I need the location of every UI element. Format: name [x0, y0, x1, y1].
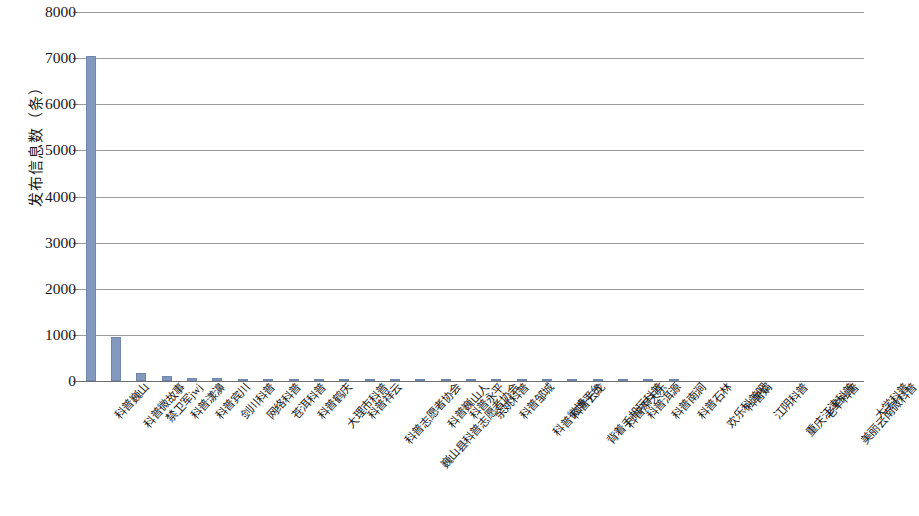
y-axis-tick-label: 8000 — [6, 4, 76, 20]
bar-series — [78, 12, 864, 381]
y-axis-tick-label: 2000 — [6, 281, 76, 297]
x-axis-tick-label: 科普巍山 — [112, 381, 150, 422]
bar[interactable] — [86, 56, 96, 381]
x-axis-labels: 科普巍山科普微故事禁卫军jwj科普漾濞科普宾川剑川科普网络科普苍洱科普科普鹤庆大… — [0, 381, 872, 516]
y-axis-tick-label: 5000 — [6, 142, 76, 158]
y-axis-tick-label: 6000 — [6, 96, 76, 112]
y-axis-tick-label: 1000 — [6, 327, 76, 343]
y-axis-tick-label: 7000 — [6, 50, 76, 66]
bar[interactable] — [111, 337, 121, 381]
plot-area: 800070006000500040003000200010000 — [78, 12, 864, 381]
y-axis-tick-label: 4000 — [6, 189, 76, 205]
y-axis-tick-label: 3000 — [6, 235, 76, 251]
x-axis-tick-label: 江阴科普 — [771, 381, 809, 422]
